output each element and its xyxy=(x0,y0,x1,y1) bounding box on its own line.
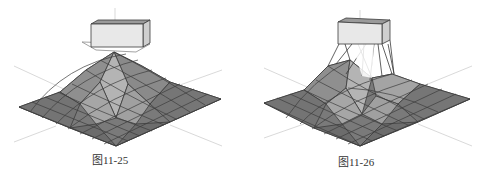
figure-11-25: 图11-25 xyxy=(0,0,242,176)
box-object xyxy=(91,20,150,47)
figure-caption: 图11-25 xyxy=(92,151,128,167)
mesh-diagram-right xyxy=(242,0,484,176)
mesh-surface xyxy=(19,52,221,146)
mesh-diagram-left xyxy=(0,0,242,176)
box-object xyxy=(338,18,390,44)
figure-11-26: 图11-26 xyxy=(242,0,484,176)
figure-caption: 图11-26 xyxy=(338,153,374,169)
